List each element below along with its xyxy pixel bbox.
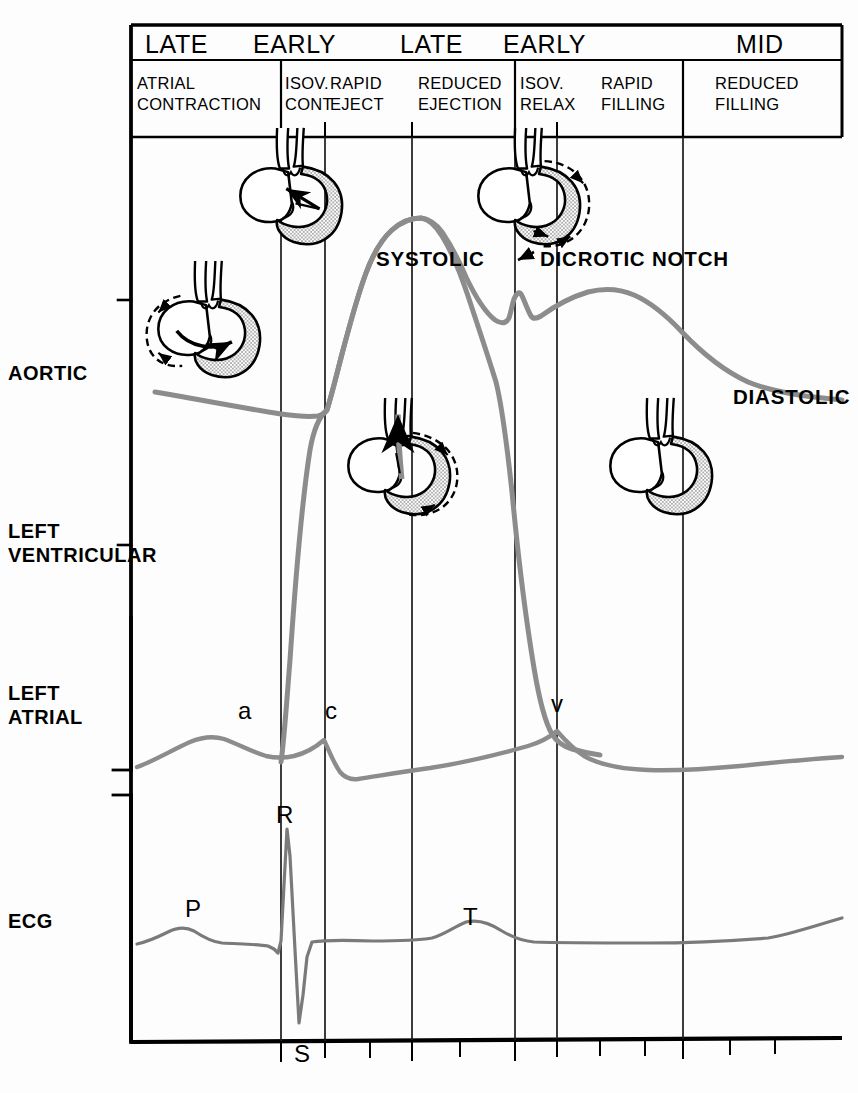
header-sub-rapid-eject: RAPID EJECT bbox=[330, 73, 384, 115]
wave-label-c: c bbox=[325, 697, 337, 725]
annotation-diastolic: DIASTOLIC bbox=[733, 385, 850, 409]
axis-label-aortic: AORTIC bbox=[8, 362, 88, 386]
heart-diagram-isovolumic-contraction bbox=[240, 128, 342, 244]
annotation-dicrotic-notch: DICROTIC NOTCH bbox=[540, 247, 729, 271]
wave-label-v: v bbox=[551, 690, 563, 718]
header-phase-late-1: LATE bbox=[145, 30, 208, 59]
header-sub-isov-relax: ISOV. RELAX bbox=[520, 73, 576, 115]
header-phase-early-1: EARLY bbox=[253, 30, 336, 59]
phase-divider-lines bbox=[281, 137, 683, 1041]
wave-label-p: P bbox=[185, 895, 201, 923]
axis-label-ecg: ECG bbox=[8, 910, 53, 934]
ecg-trace bbox=[137, 829, 842, 1023]
header-sub-isov-cont: ISOV. CONT bbox=[285, 73, 333, 115]
heart-diagram-isovolumic-relaxation bbox=[478, 128, 589, 246]
header-sub-reduced-ejection: REDUCED EJECTION bbox=[418, 73, 502, 115]
annotation-systolic: SYSTOLIC bbox=[376, 247, 485, 271]
wave-label-t: T bbox=[463, 903, 478, 931]
header-sub-rapid-filling: RAPID FILLING bbox=[601, 73, 665, 115]
header-phase-early-2: EARLY bbox=[503, 30, 586, 59]
wave-label-r: R bbox=[276, 801, 293, 829]
header-sub-reduced-filling: REDUCED FILLING bbox=[715, 73, 799, 115]
axis-label-left-ventricular: LEFT VENTRICULAR bbox=[8, 520, 157, 567]
heart-diagram-filling bbox=[610, 398, 712, 514]
axis-label-left-atrial: LEFT ATRIAL bbox=[8, 682, 83, 729]
y-axis-brackets bbox=[113, 300, 131, 1042]
heart-diagram-ejection bbox=[348, 398, 457, 515]
header-phase-mid: MID bbox=[736, 30, 784, 59]
header-sub-atrial-contraction: ATRIAL CONTRACTION bbox=[137, 73, 261, 115]
dicrotic-notch-pointer bbox=[518, 252, 534, 260]
wave-label-a: a bbox=[238, 697, 251, 725]
wave-label-s: S bbox=[294, 1040, 310, 1068]
header-phase-late-2: LATE bbox=[400, 30, 463, 59]
wiggers-diagram-page: LATE EARLY LATE EARLY MID ATRIAL CONTRAC… bbox=[0, 0, 858, 1093]
left-atrial-pressure-trace bbox=[137, 731, 842, 779]
heart-diagram-atrial-contraction bbox=[147, 261, 260, 377]
